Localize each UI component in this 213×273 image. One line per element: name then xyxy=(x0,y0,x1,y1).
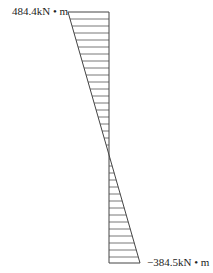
moment-curve xyxy=(68,12,140,263)
moment-outline xyxy=(68,12,140,263)
min-moment-label: −384.5kN • m xyxy=(147,257,209,268)
max-moment-label: 484.4kN • m xyxy=(12,6,68,17)
moment-diagram xyxy=(0,0,213,273)
